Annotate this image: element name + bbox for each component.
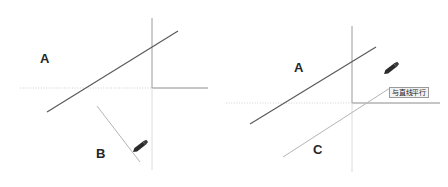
- label-line-b: B: [96, 147, 106, 160]
- line-a: [250, 47, 376, 124]
- label-line-a: A: [294, 61, 304, 74]
- panel-after: A C 与直线平行: [224, 0, 448, 187]
- illustration-canvas: A B A C 与直线平行: [0, 0, 448, 187]
- label-line-a: A: [40, 52, 50, 65]
- panel-before: A B: [0, 0, 224, 187]
- line-a: [47, 31, 178, 112]
- pen-cursor-icon: [132, 139, 149, 154]
- pen-cursor-icon: [383, 61, 400, 76]
- label-line-c: C: [313, 143, 323, 156]
- parallel-snap-tooltip: 与直线平行: [389, 87, 429, 98]
- line-c: [283, 88, 390, 157]
